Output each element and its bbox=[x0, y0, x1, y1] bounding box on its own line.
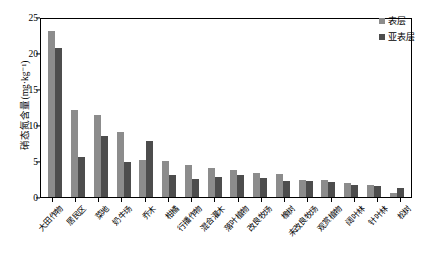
bar-group bbox=[230, 19, 244, 197]
bar bbox=[146, 141, 153, 197]
bar bbox=[260, 178, 267, 197]
x-tick-label: 针叶林 bbox=[365, 202, 390, 227]
bar bbox=[237, 175, 244, 197]
x-tick-label: 大田作物 bbox=[34, 202, 64, 233]
bar bbox=[117, 132, 124, 197]
x-tick-label: 阔叶林 bbox=[342, 202, 367, 227]
bar bbox=[276, 174, 283, 197]
x-tick-mark bbox=[354, 198, 355, 202]
bar-groups bbox=[41, 19, 411, 197]
bar bbox=[48, 31, 55, 197]
y-tick-label: 0 bbox=[0, 193, 38, 203]
bar bbox=[374, 186, 381, 197]
x-tick-label: 混合灌木 bbox=[197, 202, 227, 233]
bar-group bbox=[276, 19, 290, 197]
bar bbox=[78, 157, 85, 197]
bar-group bbox=[208, 19, 222, 197]
y-tick-label: 10 bbox=[0, 121, 38, 131]
x-tick-label: 居民区 bbox=[63, 202, 88, 227]
bar bbox=[71, 110, 78, 197]
bar-group bbox=[48, 19, 62, 197]
y-tick-label: 20 bbox=[0, 49, 38, 59]
bar-group bbox=[139, 19, 153, 197]
bar bbox=[253, 173, 260, 197]
bar bbox=[328, 182, 335, 197]
bar bbox=[124, 162, 131, 197]
bar-group bbox=[71, 19, 85, 197]
x-tick-label: 奶牛场 bbox=[109, 202, 134, 227]
legend-label: 亚表层 bbox=[388, 30, 415, 43]
bar-group bbox=[94, 19, 108, 197]
bar bbox=[306, 181, 313, 197]
x-tick-mark bbox=[52, 198, 53, 202]
bar-group bbox=[321, 19, 335, 197]
x-tick-mark bbox=[238, 198, 239, 202]
x-tick-label: 观赏植物 bbox=[313, 202, 343, 233]
bar-group bbox=[344, 19, 358, 197]
bar bbox=[299, 180, 306, 197]
bar bbox=[208, 168, 215, 197]
bar-group bbox=[162, 19, 176, 197]
y-tick-label: 5 bbox=[0, 157, 38, 167]
x-tick-mark bbox=[400, 198, 401, 202]
x-tick-label: 乔木 bbox=[138, 202, 157, 222]
bar bbox=[101, 136, 108, 197]
bar bbox=[139, 160, 146, 197]
x-tick-mark bbox=[377, 198, 378, 202]
bar-group bbox=[367, 19, 381, 197]
x-tick-mark bbox=[191, 198, 192, 202]
x-tick-mark bbox=[168, 198, 169, 202]
legend-swatch-icon bbox=[379, 34, 385, 40]
x-tick-mark bbox=[98, 198, 99, 202]
bar-group bbox=[117, 19, 131, 197]
x-tick-mark bbox=[331, 198, 332, 202]
bar bbox=[230, 170, 237, 197]
bar bbox=[215, 177, 222, 197]
bar bbox=[390, 193, 397, 197]
legend-item: 亚表层 bbox=[379, 30, 415, 43]
bar-group bbox=[299, 19, 313, 197]
bar-group bbox=[253, 19, 267, 197]
plot-area bbox=[40, 18, 412, 198]
x-tick-label: 松树 bbox=[394, 202, 413, 222]
legend-swatch-icon bbox=[379, 18, 385, 24]
bar bbox=[162, 161, 169, 197]
bar bbox=[367, 185, 374, 197]
bar bbox=[344, 183, 351, 197]
legend-item: 表层 bbox=[379, 14, 415, 27]
x-tick-label: 改良牧场 bbox=[244, 202, 274, 233]
bar bbox=[55, 48, 62, 197]
x-tick-mark bbox=[75, 198, 76, 202]
x-tick-mark bbox=[214, 198, 215, 202]
y-tick-label: 15 bbox=[0, 85, 38, 95]
bar-group bbox=[185, 19, 199, 197]
bar bbox=[94, 115, 101, 197]
bar-group bbox=[390, 19, 404, 197]
x-tick-mark bbox=[145, 198, 146, 202]
y-tick-label: 25 bbox=[0, 13, 38, 23]
legend-label: 表层 bbox=[388, 14, 406, 27]
bar bbox=[351, 185, 358, 197]
x-tick-mark bbox=[307, 198, 308, 202]
bar bbox=[192, 179, 199, 197]
bar bbox=[283, 181, 290, 197]
chart-legend: 表层亚表层 bbox=[379, 14, 415, 43]
x-tick-label: 落叶植物 bbox=[220, 202, 250, 233]
x-tick-mark bbox=[261, 198, 262, 202]
bar bbox=[321, 180, 328, 197]
bar bbox=[169, 175, 176, 197]
x-tick-mark bbox=[121, 198, 122, 202]
bar bbox=[185, 165, 192, 197]
bar bbox=[397, 188, 404, 197]
chart-figure: 硝态氮含量(mg·kg⁻¹) 0510152025 大田作物居民区菜地奶牛场乔木… bbox=[0, 0, 425, 266]
x-tick-mark bbox=[284, 198, 285, 202]
